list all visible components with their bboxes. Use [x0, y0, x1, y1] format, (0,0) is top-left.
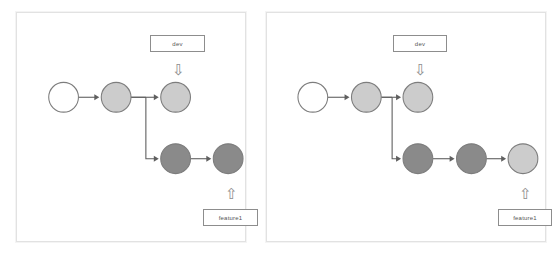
- edge-arrowhead: [450, 156, 455, 162]
- commit-graph: [17, 13, 245, 241]
- commit-node-root: [298, 82, 328, 112]
- before-commit-diagram-content: devfeature1⇩⇧: [17, 13, 245, 241]
- after-commit-diagram: devfeature1⇩⇧: [266, 12, 546, 242]
- commit-node-feature-tip: [213, 144, 243, 174]
- commit-node-feature: [161, 144, 191, 174]
- edge-root-to-base: [328, 94, 350, 100]
- diagram-canvas: devfeature1⇩⇧ devfeature1⇩⇧: [0, 0, 559, 254]
- commit-node-root: [49, 82, 79, 112]
- edge-feature-to-mid: [433, 156, 455, 162]
- branch-label-dev: dev: [393, 35, 447, 52]
- edge-mid-to-tip: [486, 156, 506, 162]
- edge-arrowhead: [154, 94, 159, 100]
- feature1-pointer-arrow-icon: ⇧: [517, 183, 533, 203]
- edge-arrowhead: [396, 94, 401, 100]
- before-commit-diagram: devfeature1⇩⇧: [16, 12, 246, 242]
- branch-label-feature1: feature1: [498, 209, 552, 226]
- commit-node-feature: [403, 144, 433, 174]
- edge-arrowhead: [345, 94, 350, 100]
- branch-label-feature1: feature1: [203, 209, 258, 226]
- edge-arrowhead: [206, 156, 211, 162]
- edge-arrowhead: [94, 94, 99, 100]
- commit-node-dev-tip: [161, 82, 191, 112]
- edge-arrowhead: [154, 156, 159, 162]
- feature1-pointer-arrow-icon: ⇧: [223, 183, 239, 203]
- dev-pointer-arrow-icon: ⇩: [412, 59, 428, 79]
- edge-feature-to-tip: [190, 156, 211, 162]
- edge-root-to-base: [78, 94, 99, 100]
- edge-base-to-feature: [381, 97, 401, 162]
- edge-arrowhead: [396, 156, 401, 162]
- commit-node-feature-mid: [457, 144, 487, 174]
- commit-node-base: [351, 82, 381, 112]
- edge-base-to-feature: [131, 97, 159, 162]
- after-commit-diagram-content: devfeature1⇩⇧: [267, 13, 545, 241]
- commit-node-feature-tip: [508, 144, 538, 174]
- branch-label-dev: dev: [150, 35, 205, 52]
- dev-pointer-arrow-icon: ⇩: [170, 59, 186, 79]
- commit-node-dev-tip: [403, 82, 433, 112]
- commit-node-base: [101, 82, 131, 112]
- edge-arrowhead: [501, 156, 506, 162]
